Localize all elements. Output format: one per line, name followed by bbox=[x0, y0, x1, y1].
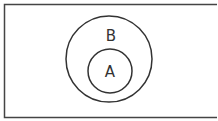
universal-set-rectangle bbox=[5, 5, 218, 118]
venn-diagram: B A bbox=[0, 0, 217, 121]
set-b-label: B bbox=[106, 27, 116, 45]
set-a-label: A bbox=[105, 63, 116, 81]
